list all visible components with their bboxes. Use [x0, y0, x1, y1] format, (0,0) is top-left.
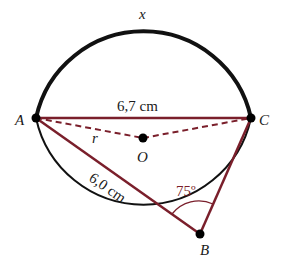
- angle-b-arc: [172, 201, 213, 214]
- label-o: O: [137, 149, 148, 165]
- circle-diagram: x 6,7 cm A C r O B 6,0 cm 75º: [0, 0, 286, 278]
- point-c: [247, 114, 256, 123]
- label-c: C: [259, 112, 270, 128]
- label-ac-length: 6,7 cm: [117, 98, 158, 114]
- label-ab-length: 6,0 cm: [86, 169, 129, 206]
- point-o: [139, 134, 148, 143]
- chord-ab: [36, 118, 200, 234]
- label-angle-b: 75º: [176, 183, 196, 199]
- point-b: [196, 230, 205, 239]
- radius-oc: [143, 118, 251, 138]
- chord-bc: [200, 118, 251, 234]
- label-b: B: [200, 242, 209, 258]
- label-a: A: [14, 112, 25, 128]
- point-a: [32, 114, 41, 123]
- label-r: r: [92, 130, 98, 146]
- label-x: x: [138, 6, 146, 22]
